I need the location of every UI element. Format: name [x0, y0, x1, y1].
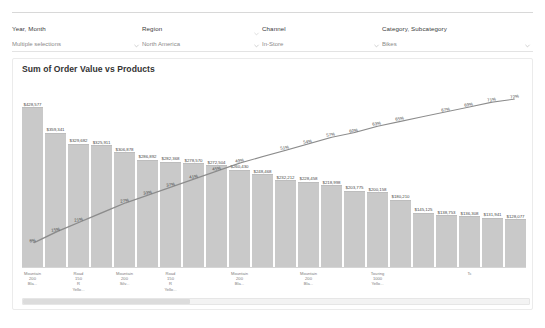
bar-value-label: $145,125	[415, 207, 433, 212]
bar-value-label: $232,212	[277, 175, 295, 180]
bar-value-label: $203,775	[346, 185, 364, 190]
x-axis-tick-label: Mountain200Bla...	[229, 269, 250, 295]
x-axis-tick-label: Mountain200Bla...	[22, 269, 43, 295]
bar[interactable]	[436, 215, 457, 267]
bar[interactable]	[183, 163, 204, 267]
filter-channel[interactable]: Channel In-Store	[262, 22, 382, 54]
chevron-down-icon[interactable]	[133, 42, 140, 49]
bar-value-label: $128,077	[507, 214, 525, 219]
bar[interactable]	[206, 165, 227, 267]
bar-item[interactable]: $136,308	[459, 81, 480, 267]
bar[interactable]	[22, 107, 43, 267]
x-axis-tick-label	[252, 269, 273, 295]
bar-item[interactable]: $138,753	[436, 81, 457, 267]
bar-item[interactable]: $428,577	[22, 81, 43, 267]
x-axis-tick-label	[45, 269, 66, 295]
filter-dropdown[interactable]: In-Store	[262, 39, 382, 52]
chart-title: Sum of Order Value vs Products	[22, 64, 155, 74]
bar-item[interactable]: $203,775	[344, 81, 365, 267]
bar-item[interactable]: $329,682	[68, 81, 89, 267]
bar[interactable]	[344, 191, 365, 267]
chevron-down-icon[interactable]	[253, 42, 260, 49]
bar[interactable]	[413, 213, 434, 267]
x-axis-tick-label	[275, 269, 296, 295]
chevron-down-icon[interactable]	[524, 42, 531, 49]
bar[interactable]	[160, 162, 181, 267]
bar-value-label: $329,682	[70, 138, 88, 143]
bar[interactable]	[229, 170, 250, 267]
bar-item[interactable]: $180,210	[390, 81, 411, 267]
bar-item[interactable]: $218,998	[321, 81, 342, 267]
bar-value-label: $282,368	[162, 156, 180, 161]
filter-dropdown[interactable]: Multiple selections	[12, 39, 142, 52]
bar[interactable]	[114, 152, 135, 267]
filter-label: Region	[142, 22, 262, 33]
bar[interactable]	[298, 182, 319, 267]
bar-item[interactable]: $260,430	[229, 81, 250, 267]
chart-card: Sum of Order Value vs Products $428,577$…	[12, 58, 533, 310]
x-axis-tick-label	[321, 269, 342, 295]
bar-item[interactable]: $306,878	[114, 81, 135, 267]
bar[interactable]	[482, 218, 503, 267]
x-axis-tick-label	[183, 269, 204, 295]
x-axis-tick-label	[91, 269, 112, 295]
x-axis-labels: Mountain200Bla...Road150RYello...Mountai…	[22, 269, 526, 295]
bar-item[interactable]: $325,911	[91, 81, 112, 267]
filter-region[interactable]: Region North America	[142, 22, 262, 54]
bar-item[interactable]: $278,570	[183, 81, 204, 267]
bar-item[interactable]: $128,077	[505, 81, 526, 267]
bar-item[interactable]: $282,368	[160, 81, 181, 267]
bar[interactable]	[275, 180, 296, 267]
pareto-chart[interactable]: $428,577$359,341$329,682$325,911$306,878…	[22, 81, 526, 267]
bar-value-label: $428,577	[24, 102, 42, 107]
bar-value-label: $131,941	[484, 212, 502, 217]
bar-value-label: $260,430	[231, 164, 249, 169]
scrollbar-thumb[interactable]	[23, 299, 190, 304]
bar-value-label: $180,210	[392, 194, 410, 199]
bar-item[interactable]: $145,125	[413, 81, 434, 267]
dashboard-page: Year, Month Multiple selections Region N…	[0, 0, 545, 328]
bar[interactable]	[137, 160, 158, 267]
bar-item[interactable]: $232,212	[275, 81, 296, 267]
chevron-down-icon[interactable]	[373, 42, 380, 49]
bar[interactable]	[252, 174, 273, 267]
bar-item[interactable]: $272,504	[206, 81, 227, 267]
filter-category-subcategory[interactable]: Category, Subcategory Bikes	[382, 22, 533, 54]
bar[interactable]	[367, 192, 388, 267]
bar-item[interactable]: $131,941	[482, 81, 503, 267]
filter-label: Channel	[262, 22, 382, 33]
bar-item[interactable]: $359,341	[45, 81, 66, 267]
x-axis-tick-label	[482, 269, 503, 295]
bar-value-label: $272,504	[208, 160, 226, 165]
x-axis-tick-label	[206, 269, 227, 295]
bar[interactable]	[45, 133, 66, 267]
bar-value-label: $248,468	[254, 169, 272, 174]
filter-dropdown[interactable]: Bikes	[382, 39, 533, 52]
bar[interactable]	[505, 219, 526, 267]
bar-value-label: $200,158	[369, 187, 387, 192]
bar[interactable]	[321, 185, 342, 267]
x-axis-tick-label: Road150RYello...	[68, 269, 89, 295]
x-axis-tick-label: Touring1000Yello...	[367, 269, 388, 295]
x-axis-line	[22, 267, 526, 268]
bar[interactable]	[91, 145, 112, 267]
filter-label: Category, Subcategory	[382, 22, 533, 33]
bar[interactable]	[68, 144, 89, 267]
x-axis-tick-label: Mountain200Silv...	[114, 269, 135, 295]
bar-item[interactable]: $248,468	[252, 81, 273, 267]
bar-item[interactable]: $228,458	[298, 81, 319, 267]
x-axis-tick-label	[390, 269, 411, 295]
bar-item[interactable]: $200,158	[367, 81, 388, 267]
bar-value-label: $306,878	[116, 147, 134, 152]
bar-value-label: $218,998	[323, 180, 341, 185]
bar[interactable]	[459, 216, 480, 267]
filter-value: North America	[142, 39, 262, 50]
x-axis-tick-label	[137, 269, 158, 295]
horizontal-scrollbar[interactable]	[22, 298, 530, 305]
bar-value-label: $286,892	[139, 154, 157, 159]
filter-dropdown[interactable]: North America	[142, 39, 262, 52]
chevron-down-icon[interactable]	[253, 23, 260, 30]
bar[interactable]	[390, 200, 411, 267]
filter-year-month[interactable]: Year, Month Multiple selections	[12, 22, 142, 54]
bar-item[interactable]: $286,892	[137, 81, 158, 267]
